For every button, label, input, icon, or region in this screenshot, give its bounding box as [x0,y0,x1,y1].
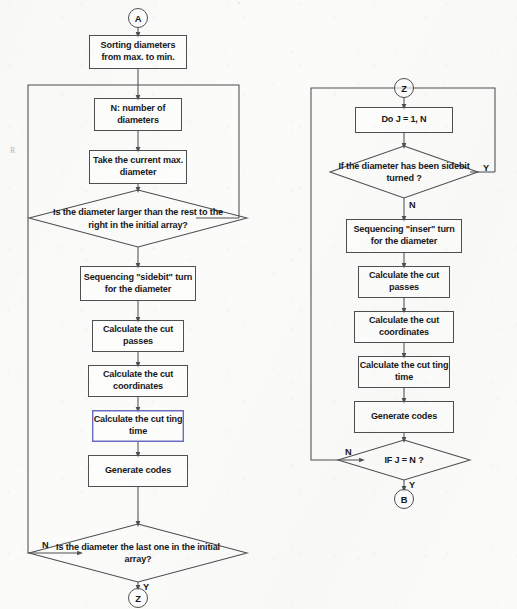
margin-artifact-top: ' [238,1,239,10]
branch-label-if-j-no: N [345,447,352,457]
process-calculate-cut-passes[interactable]: Calculate the cut passes [92,320,184,352]
connector-a[interactable]: A [128,8,148,28]
branch-label-sidebit-no: N [409,200,416,210]
process-calculate-cutting-time-right[interactable]: Calculate the cut ting time [358,356,450,388]
process-calculate-cut-passes-right[interactable]: Calculate the cut passes [358,266,450,298]
flowchart-page: A Sorting diameters from max. to min. N:… [0,0,517,609]
process-calculate-cutting-time[interactable]: Calculate the cut ting time [92,410,184,442]
process-sequencing-inser-turn[interactable]: Sequencing "inser" turn for the diameter [346,219,462,253]
process-sorting-diameters[interactable]: Sorting diameters from max. to min. [89,35,187,69]
process-take-current-max-diameter[interactable]: Take the current max. diameter [89,150,187,184]
connector-b[interactable]: B [394,489,414,509]
process-n-number-of-diameters[interactable]: N: number of diameters [94,98,182,131]
margin-artifact-left: R [10,146,15,155]
connector-z-right-entry[interactable]: Z [394,78,414,98]
process-sequencing-sidebit-turn[interactable]: Sequencing "sidebit" turn for the diamet… [80,266,196,301]
process-generate-codes[interactable]: Generate codes [88,455,188,487]
flow-connector-lines [0,0,517,609]
branch-label-is-last-yes: Y [143,582,149,592]
branch-label-is-last-no: N [42,540,49,550]
process-generate-codes-right[interactable]: Generate codes [354,401,454,433]
process-calculate-cut-coordinates[interactable]: Calculate the cut coordinates [88,365,188,397]
process-do-loop[interactable]: Do J = 1, N [355,107,453,133]
branch-label-sidebit-yes: Y [483,163,489,173]
process-calculate-cut-coordinates-right[interactable]: Calculate the cut coordinates [354,311,454,343]
branch-label-if-j-yes: Y [409,480,415,490]
